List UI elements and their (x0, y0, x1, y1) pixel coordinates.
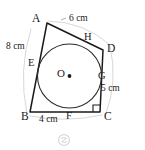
measure-label-gc: 5 cm (101, 84, 120, 94)
ghost-arc-right (106, 46, 113, 114)
vertex-label-a: A (32, 13, 40, 25)
vertex-label-b: B (21, 111, 29, 123)
measure-label-ah: 6 cm (69, 14, 88, 24)
right-angle-marker-c (93, 105, 100, 112)
vertex-label-d: D (107, 43, 115, 55)
watermark-icon (59, 135, 70, 146)
tangent-label-g: G (98, 71, 106, 82)
tangent-label-h: H (84, 32, 92, 43)
circle-center-label: O (57, 68, 65, 79)
measure-label-bf: 4 cm (39, 115, 58, 125)
circle-center-dot (68, 74, 72, 78)
tangent-label-e: E (28, 58, 34, 69)
vertex-label-c: C (104, 111, 112, 123)
ghost-arc-top (48, 21, 110, 45)
geometry-figure: A B C D E F G H O 6 cm 8 cm 4 cm 5 cm (0, 0, 145, 150)
measure-tick-ah (61, 18, 66, 20)
measure-label-ab: 8 cm (6, 42, 25, 52)
tangent-label-f: F (66, 111, 72, 122)
